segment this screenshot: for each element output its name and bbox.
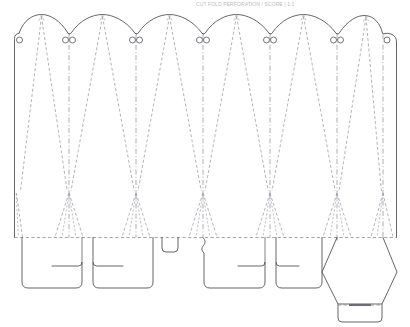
bottom-tab-1 [22, 238, 82, 289]
hexagon-closure-panel [322, 238, 397, 323]
bottom-tab-3 [202, 238, 265, 289]
center-lock-tab [162, 238, 178, 253]
dieline-drawing [0, 0, 410, 327]
hole [338, 37, 344, 43]
hole [130, 37, 136, 43]
hole [70, 37, 76, 43]
hole [271, 37, 277, 43]
hole [197, 37, 203, 43]
bottom-tab-2 [93, 238, 153, 289]
outer-cut-contour [15, 15, 397, 238]
lower-fan-folds [16, 193, 393, 237]
hole [17, 37, 23, 43]
panel-division-folds [69, 34, 383, 237]
hole [384, 37, 390, 43]
hole [204, 37, 210, 43]
bottom-tab-4 [276, 238, 322, 289]
apex-diagonal-folds [21, 15, 382, 191]
hole [137, 37, 143, 43]
hole [264, 37, 270, 43]
hole [331, 37, 337, 43]
hole [63, 37, 69, 43]
dieline-canvas: CUT FOLD PERFORATION / SCORE | 1:1 [0, 0, 410, 327]
